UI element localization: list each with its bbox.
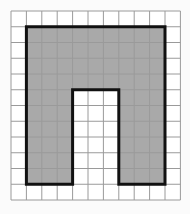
grid-shape-diagram: [0, 0, 190, 214]
grid-figure: [0, 0, 190, 214]
